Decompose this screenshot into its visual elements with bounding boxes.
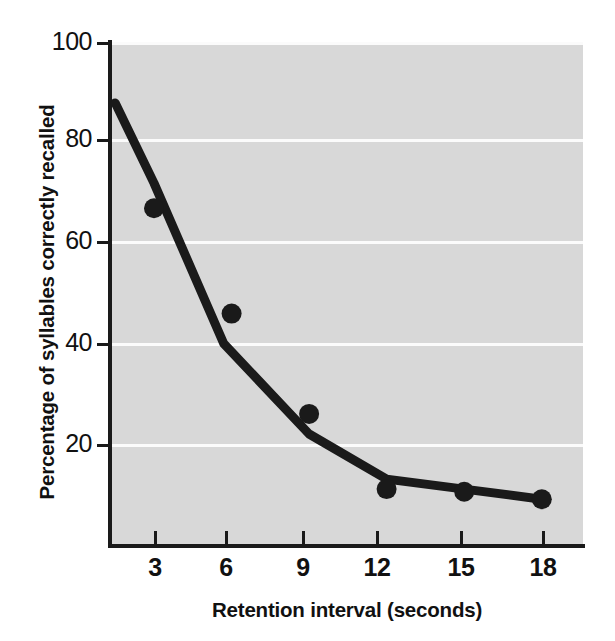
forgetting-curve-chart: Percentage of syllables correctly recall… xyxy=(0,0,615,641)
gridline-60 xyxy=(111,241,583,244)
x-tick-3 xyxy=(154,531,157,545)
y-tick-label-80: 80 xyxy=(32,124,92,153)
y-tick-label-60: 60 xyxy=(32,226,92,255)
x-tick-6 xyxy=(225,531,228,545)
x-tick-18 xyxy=(542,531,545,545)
gridline-20 xyxy=(111,444,583,447)
y-axis-line xyxy=(108,40,112,548)
x-axis-title: Retention interval (seconds) xyxy=(110,598,584,622)
x-tick-15 xyxy=(460,531,463,545)
x-tick-label-18: 18 xyxy=(513,553,573,582)
x-tick-12 xyxy=(376,531,379,545)
gridline-100 xyxy=(111,42,583,45)
y-tick-40 xyxy=(97,343,111,346)
x-tick-label-12: 12 xyxy=(347,553,407,582)
x-tick-label-6: 6 xyxy=(196,553,256,582)
x-tick-label-15: 15 xyxy=(431,553,491,582)
y-tick-100 xyxy=(97,42,111,45)
y-tick-80 xyxy=(97,139,111,142)
y-tick-label-20: 20 xyxy=(32,429,92,458)
y-tick-label-40: 40 xyxy=(32,328,92,357)
y-tick-20 xyxy=(97,444,111,447)
y-tick-label-100: 100 xyxy=(32,27,92,56)
gridline-80 xyxy=(111,139,583,142)
y-tick-60 xyxy=(97,241,111,244)
plot-area xyxy=(111,42,583,546)
x-tick-label-9: 9 xyxy=(273,553,333,582)
x-tick-9 xyxy=(302,531,305,545)
x-axis-line xyxy=(108,544,585,548)
x-tick-label-3: 3 xyxy=(125,553,185,582)
gridline-40 xyxy=(111,343,583,346)
